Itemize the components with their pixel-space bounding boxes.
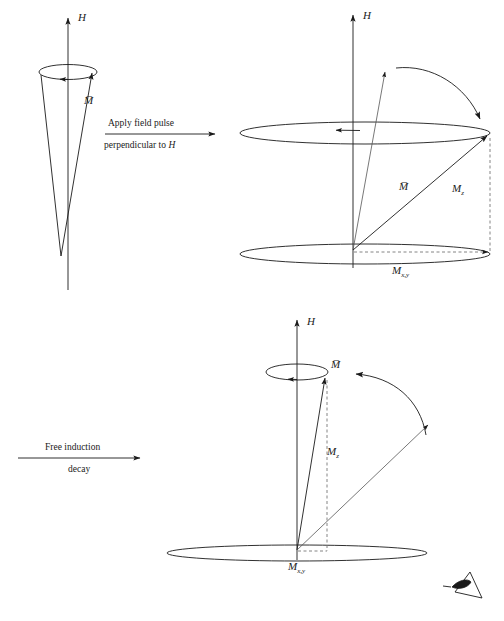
nmr-precession-diagram: H M̅ Apply field pulse perpendicular to … [0,0,504,621]
relaxation-curved-arrow-fid [356,374,426,435]
mz-label-sub: z [460,189,464,197]
magnetization-vector-after-pulse [353,136,487,250]
mz-label-sub-fid: z [335,452,339,460]
eye-icon-pupil [452,580,471,588]
figure-canvas: H M̅ Apply field pulse perpendicular to … [0,0,504,621]
eye-icon [443,572,482,598]
m-vector-label-equilibrium: M̅ [83,94,94,106]
transition-apply-pulse: Apply field pulse perpendicular to H [104,118,215,150]
transition-fid: Free induction decay [18,442,140,474]
mxy-label-fid: Mx,y [287,560,306,575]
fid-line1: Free induction [45,442,100,452]
panel-after-pulse: H M̅ Mz Mx,y [240,9,490,279]
panel-equilibrium: H M̅ [39,11,97,290]
rotation-curved-arrow-after-pulse [396,68,480,119]
mz-label-after-pulse: Mz [451,182,464,197]
h-axis-label-after-pulse: H [362,9,372,21]
mxy-label-after-pulse: Mx,y [391,264,410,279]
h-axis-label-fid: H [306,315,316,327]
decaying-vector-ghost-fid [297,425,428,550]
apply-pulse-line1: Apply field pulse [108,118,174,128]
m-vector-label-after-pulse: M̅ [398,180,409,192]
mxy-label-sub-fid: x,y [296,567,306,575]
magnetization-vector-fid [297,378,325,550]
mz-label-fid: Mz [326,445,339,460]
transverse-plane-ellipse-upper [240,122,490,144]
apply-pulse-line2-italic: H [167,140,176,150]
h-axis-label-equilibrium: H [77,11,87,23]
eye-icon-sight-line [443,586,451,587]
fid-line2: decay [68,464,90,474]
mxy-label-sub: x,y [400,271,410,279]
panel-fid: H M̅ Mz Mx,y [167,315,428,575]
pre-pulse-vector-ghost [353,72,385,250]
base-plane-ellipse-after-pulse [240,244,490,264]
m-vector-label-fid: M̅ [330,358,341,370]
apply-pulse-line2: perpendicular to H [104,140,176,150]
cone-edge-equilibrium [41,75,61,256]
apply-pulse-line2-text: perpendicular to [104,140,168,150]
